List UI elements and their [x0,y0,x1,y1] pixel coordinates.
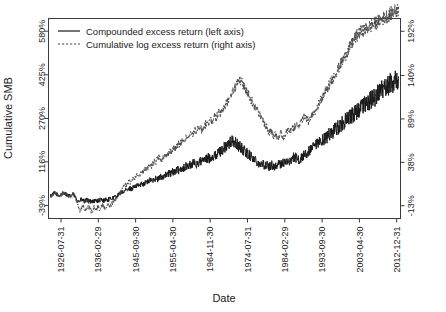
x-tick-label: 1955-04-30 [168,227,178,273]
x-tick-label: 1984-02-29 [280,227,290,273]
x-tick-label: 1964-11-30 [205,227,215,272]
y-right-ticks [401,31,405,205]
y-right-tick-label: 192% [406,20,416,43]
chart-legend: Compounded excess return (left axis) Cum… [58,26,255,50]
y-left-tick-label: 116% [37,151,47,173]
y-left-tick-label: 425% [37,63,47,86]
x-tick-label: 1974-07-31 [243,227,253,273]
chart-figure: Cumulative SMB Date -39%116%270%425%580%… [0,0,446,312]
y-left-tick-label: 270% [37,107,47,130]
x-tick-label: 1993-09-30 [317,227,327,273]
y-right-tick-label: 89% [406,110,416,128]
series-line-solid [51,71,399,204]
y-left-tick-labels: -39%116%270%425%580% [37,20,47,216]
legend-label-cumulative-log: Cumulative log excess return (right axis… [86,39,255,50]
y-right-tick-labels: -13%38%89%140%192% [406,20,416,216]
y-right-tick-label: 140% [406,64,416,87]
x-tick-label: 1936-02-29 [94,227,104,273]
x-tick-label: 2012-12-31 [392,227,402,273]
x-tick-labels: 1926-07-311936-02-291945-09-301955-04-30… [56,227,402,273]
x-tick-label: 2003-04-30 [355,227,365,273]
x-ticks [61,219,397,223]
y-right-tick-label: -13% [406,195,416,216]
y-left-tick-label: 580% [37,20,47,43]
x-axis-title: Date [212,292,235,304]
x-tick-label: 1926-07-31 [56,227,66,273]
legend-label-compounded: Compounded excess return (left axis) [86,26,244,37]
x-tick-label: 1945-09-30 [131,227,141,273]
y-axis-title: Cumulative SMB [2,77,14,159]
y-left-tick-label: -39% [37,195,47,216]
y-right-tick-label: 38% [406,153,416,171]
chart-svg: Cumulative SMB Date -39%116%270%425%580%… [0,0,446,312]
